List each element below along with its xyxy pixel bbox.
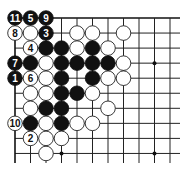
white-stone[interactable] — [23, 26, 38, 41]
white-stone-icon — [116, 26, 131, 41]
white-stone[interactable]: 6 — [23, 71, 38, 86]
star-point-icon — [60, 151, 64, 155]
black-stone-icon — [54, 41, 69, 56]
white-stone-icon — [116, 56, 131, 71]
white-stone-icon — [70, 41, 85, 56]
white-stone-icon — [116, 71, 131, 86]
white-stone-icon — [39, 56, 54, 71]
move-number: 7 — [12, 58, 18, 69]
white-stone[interactable] — [116, 71, 131, 86]
white-stone-icon — [39, 71, 54, 86]
white-stone[interactable] — [39, 86, 54, 101]
white-stone-icon — [101, 41, 116, 56]
black-stone[interactable] — [54, 116, 69, 131]
black-stone-icon — [23, 116, 38, 131]
black-stone[interactable] — [39, 101, 54, 116]
white-stone[interactable] — [70, 116, 85, 131]
black-stone-icon — [54, 101, 69, 116]
white-stone[interactable] — [101, 41, 116, 56]
black-stone[interactable] — [54, 71, 69, 86]
star-point-icon — [153, 151, 157, 155]
move-number: 6 — [28, 73, 34, 84]
white-stone-icon — [39, 116, 54, 131]
black-stone[interactable] — [39, 41, 54, 56]
white-stone[interactable] — [116, 56, 131, 71]
white-stone[interactable] — [54, 131, 69, 146]
move-number: 4 — [28, 43, 34, 54]
move-number: 11 — [10, 13, 21, 24]
white-stone[interactable] — [23, 101, 38, 116]
white-stone[interactable] — [70, 26, 85, 41]
white-stone[interactable] — [85, 116, 100, 131]
move-number: 3 — [43, 28, 49, 39]
black-stone[interactable] — [54, 41, 69, 56]
black-stone[interactable]: 5 — [23, 11, 38, 26]
white-stone-icon — [85, 116, 100, 131]
move-number: 8 — [12, 28, 18, 39]
white-stone[interactable] — [39, 131, 54, 146]
white-stone-icon — [101, 101, 116, 116]
white-stone[interactable]: 8 — [8, 26, 23, 41]
black-stone[interactable] — [54, 86, 69, 101]
black-stone[interactable] — [54, 56, 69, 71]
white-stone-icon — [85, 86, 100, 101]
black-stone[interactable]: 3 — [39, 26, 54, 41]
white-stone[interactable] — [70, 41, 85, 56]
black-stone[interactable] — [54, 101, 69, 116]
move-number: 2 — [28, 133, 34, 144]
black-stone[interactable] — [70, 56, 85, 71]
white-stone[interactable] — [101, 101, 116, 116]
black-stone-icon — [54, 86, 69, 101]
black-stone-icon — [85, 71, 100, 86]
white-stone-icon — [23, 26, 38, 41]
white-stone-icon — [85, 26, 100, 41]
black-stone-icon — [85, 41, 100, 56]
black-stone-icon — [70, 56, 85, 71]
white-stone[interactable] — [39, 116, 54, 131]
white-stone[interactable] — [39, 56, 54, 71]
black-stone-icon — [85, 56, 100, 71]
black-stone[interactable] — [85, 56, 100, 71]
white-stone-icon — [39, 146, 54, 161]
black-stone[interactable]: 7 — [8, 56, 23, 71]
black-stone[interactable] — [23, 116, 38, 131]
white-stone[interactable]: 4 — [23, 41, 38, 56]
white-stone-icon — [70, 116, 85, 131]
black-stone[interactable] — [85, 41, 100, 56]
white-stone-icon — [70, 26, 85, 41]
white-stone[interactable] — [39, 71, 54, 86]
black-stone[interactable]: 9 — [39, 11, 54, 26]
black-stone-icon — [39, 41, 54, 56]
black-stone[interactable]: 11 — [8, 11, 23, 26]
move-number: 1 — [12, 73, 18, 84]
black-stone-icon — [54, 71, 69, 86]
white-stone-icon — [101, 71, 116, 86]
white-stone[interactable]: 2 — [23, 131, 38, 146]
white-stone[interactable] — [85, 86, 100, 101]
move-number: 9 — [43, 13, 49, 24]
black-stone-icon — [70, 86, 85, 101]
move-number: 10 — [9, 118, 21, 129]
black-stone-icon — [54, 116, 69, 131]
white-stone[interactable]: 10 — [8, 116, 23, 131]
star-point-icon — [153, 61, 157, 65]
white-stone-icon — [39, 131, 54, 146]
white-stone-icon — [39, 86, 54, 101]
white-stone[interactable] — [101, 71, 116, 86]
move-number: 5 — [28, 13, 34, 24]
white-stone[interactable] — [39, 146, 54, 161]
black-stone[interactable]: 1 — [8, 71, 23, 86]
white-stone[interactable] — [23, 86, 38, 101]
white-stone[interactable] — [116, 26, 131, 41]
black-stone[interactable] — [70, 86, 85, 101]
white-stone-icon — [54, 131, 69, 146]
black-stone[interactable] — [85, 71, 100, 86]
black-stone-icon — [39, 101, 54, 116]
black-stone-icon — [54, 56, 69, 71]
black-stone[interactable] — [101, 56, 116, 71]
white-stone-icon — [23, 86, 38, 101]
black-stone-icon — [101, 56, 116, 71]
white-stone[interactable] — [85, 26, 100, 41]
black-stone[interactable] — [23, 56, 38, 71]
go-board[interactable]: 1159834716102 — [0, 0, 190, 172]
